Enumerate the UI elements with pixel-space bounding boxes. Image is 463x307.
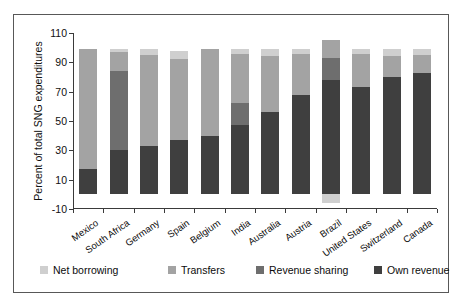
bar-stack	[231, 33, 249, 209]
x-tick	[407, 209, 408, 213]
y-axis-title: Percent of total SNG expenditures	[32, 33, 46, 209]
bar-segment	[231, 125, 249, 194]
y-tick-label: 90	[55, 56, 67, 68]
bar-segment	[352, 54, 370, 88]
bar-segment	[413, 55, 431, 73]
y-tick-label: -10	[52, 203, 67, 215]
bar-stack	[413, 33, 431, 209]
x-tick	[316, 209, 317, 213]
x-axis-label: Canada	[401, 217, 435, 245]
legend-item[interactable]: Net borrowing	[40, 264, 118, 276]
bar-segment	[261, 56, 279, 112]
bar-segment	[79, 49, 97, 169]
plot-area: -101030507090110	[73, 33, 437, 209]
bar-segment	[261, 112, 279, 194]
x-tick	[225, 209, 226, 213]
chart-figure: Percent of total SNG expenditures -10103…	[13, 14, 449, 293]
bar-segment	[170, 140, 188, 194]
y-tick	[69, 150, 73, 151]
bar-stack	[140, 33, 158, 209]
bar-segment	[140, 55, 158, 146]
bar-segment	[413, 73, 431, 195]
x-axis-label: Australia	[246, 217, 283, 247]
x-tick	[285, 209, 286, 213]
legend-label: Own revenue	[387, 264, 449, 276]
legend-label: Revenue sharing	[269, 264, 348, 276]
bar-stack	[383, 33, 401, 209]
x-tick	[437, 209, 438, 213]
bar-segment	[383, 49, 401, 56]
y-tick	[69, 33, 73, 34]
legend-item[interactable]: Transfers	[168, 264, 225, 276]
legend-swatch-icon	[374, 266, 382, 274]
x-tick	[376, 209, 377, 213]
bar-segment	[110, 150, 128, 194]
bar-stack	[110, 33, 128, 209]
y-tick	[69, 180, 73, 181]
x-tick	[103, 209, 104, 213]
bar-stack	[79, 33, 97, 209]
x-tick	[73, 209, 74, 213]
bar-segment	[322, 194, 340, 203]
chart-legend: Net borrowingTransfersRevenue sharingOwn…	[40, 264, 430, 280]
bar-segment	[201, 136, 219, 195]
legend-label: Transfers	[181, 264, 225, 276]
bar-segment	[322, 80, 340, 194]
bar-segment	[292, 95, 310, 195]
bar-segment	[170, 59, 188, 140]
bar-segment	[383, 56, 401, 77]
bar-segment	[322, 40, 340, 58]
bar-segment	[292, 49, 310, 53]
y-tick	[69, 121, 73, 122]
x-axis-label: Austria	[282, 217, 313, 243]
bar-segment	[231, 103, 249, 125]
legend-label: Net borrowing	[53, 264, 118, 276]
y-tick-label: 30	[55, 144, 67, 156]
y-axis-line	[73, 33, 74, 209]
bar-segment	[231, 54, 249, 104]
bar-segment	[79, 169, 97, 194]
bar-segment	[110, 71, 128, 150]
bar-segment	[140, 146, 158, 194]
bar-stack	[261, 33, 279, 209]
bar-segment	[261, 49, 279, 56]
bar-segment	[352, 87, 370, 194]
legend-swatch-icon	[40, 266, 48, 274]
x-tick	[255, 209, 256, 213]
bar-segment	[413, 49, 431, 55]
bar-stack	[292, 33, 310, 209]
x-tick	[346, 209, 347, 213]
y-tick-label: 110	[50, 27, 67, 39]
legend-item[interactable]: Own revenue	[374, 264, 449, 276]
bar-segment	[170, 51, 188, 60]
legend-item[interactable]: Revenue sharing	[256, 264, 348, 276]
y-tick-label: 50	[55, 115, 67, 127]
bar-segment	[201, 49, 219, 136]
x-axis-label: Belgium	[187, 217, 221, 246]
legend-swatch-icon	[256, 266, 264, 274]
y-tick	[69, 92, 73, 93]
bar-segment	[383, 77, 401, 194]
y-tick-label: 10	[55, 174, 67, 186]
legend-swatch-icon	[168, 266, 176, 274]
bar-segment	[292, 54, 310, 95]
bar-segment	[110, 52, 128, 71]
x-tick	[164, 209, 165, 213]
bar-stack	[322, 33, 340, 209]
y-tick	[69, 62, 73, 63]
bar-stack	[352, 33, 370, 209]
bar-segment	[140, 49, 158, 55]
x-tick	[134, 209, 135, 213]
y-tick-label: 70	[55, 86, 67, 98]
x-tick	[194, 209, 195, 213]
bar-segment	[352, 49, 370, 53]
bar-segment	[231, 49, 249, 53]
bar-stack	[170, 33, 188, 209]
bar-stack	[201, 33, 219, 209]
bar-segment	[110, 49, 128, 52]
bar-segment	[322, 58, 340, 80]
